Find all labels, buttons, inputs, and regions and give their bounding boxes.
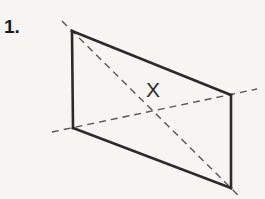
figure-canvas: 1. X — [0, 0, 265, 199]
edge-left — [72, 31, 73, 128]
edge-bottom — [73, 128, 231, 188]
diagonal-lines-group — [52, 21, 257, 197]
geometry-diagram — [0, 0, 265, 199]
diagonal-topleft-to-bottomright — [62, 21, 240, 197]
point-label-x: X — [146, 79, 160, 100]
